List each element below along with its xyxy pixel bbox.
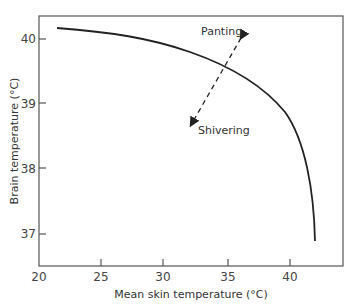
data-curve [57,28,315,241]
x-axis: 20 25 30 35 40 Mean skin temperature (°C… [31,259,297,301]
y-tick-label: 37 [21,227,36,241]
y-tick-label: 38 [21,162,36,176]
chart: 40 39 38 37 Brain temperature (°C) 20 25… [0,0,352,305]
x-tick-label: 35 [220,270,235,284]
panting-label: Panting [201,25,242,38]
x-axis-title: Mean skin temperature (°C) [114,288,268,301]
plot-frame [39,16,343,266]
y-tick-label: 39 [21,97,36,111]
y-tick-label: 40 [21,32,36,46]
x-tick-label: 30 [155,270,170,284]
shivering-label: Shivering [198,124,250,137]
x-tick-label: 20 [31,270,46,284]
x-tick-label: 25 [93,270,108,284]
y-axis-title: Brain temperature (°C) [8,78,21,205]
y-axis: 40 39 38 37 Brain temperature (°C) [8,32,46,241]
panting-shivering-arrow [191,38,241,125]
x-tick-label: 40 [282,270,297,284]
